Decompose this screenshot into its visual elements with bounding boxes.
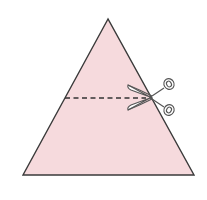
triangle-cut-diagram [0, 0, 207, 200]
triangle [23, 19, 194, 175]
